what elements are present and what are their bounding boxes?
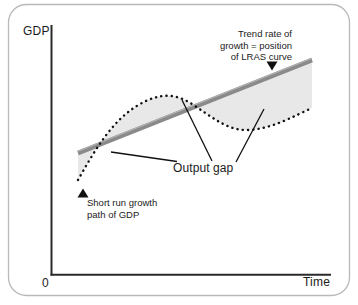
short-run-growth-annotation: Short run growth path of GDP	[87, 197, 197, 220]
output-gap-annotation: Output gap	[173, 163, 233, 175]
x-axis-label: Time	[303, 277, 330, 289]
trend-rate-annotation: Trend rate of growth = position of LRAS …	[186, 28, 292, 63]
panel-border	[9, 5, 350, 296]
diagram-canvas	[0, 0, 358, 305]
origin-label: 0	[42, 278, 49, 290]
figure-container: GDP Time 0 Trend rate of growth = positi…	[0, 0, 358, 305]
y-axis-label: GDP	[23, 26, 50, 38]
